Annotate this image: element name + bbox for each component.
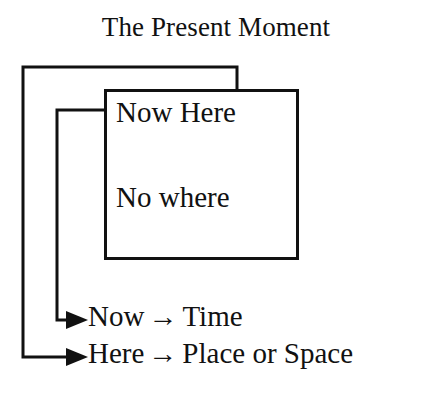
diagram-canvas: The Present Moment Now Here No where Now… (0, 0, 432, 402)
legend-source-here: Here (88, 337, 144, 369)
legend-row-now: Now→Time (88, 302, 243, 331)
legend-target-here: Place or Space (182, 337, 353, 369)
right-arrowhead-icon-now (66, 311, 88, 329)
legend-row-here: Here→Place or Space (88, 339, 353, 368)
legend-source-now: Now (88, 300, 144, 332)
right-arrow-icon-now: → (144, 300, 182, 332)
right-arrowhead-icon-here (66, 348, 88, 366)
box-label-now-here: Now Here (116, 98, 236, 127)
legend-target-now: Time (182, 300, 242, 332)
page-title: The Present Moment (0, 14, 432, 41)
right-arrow-icon-here: → (144, 337, 182, 369)
inner-connector-line (57, 110, 105, 320)
box-label-no-where: No where (116, 183, 230, 212)
